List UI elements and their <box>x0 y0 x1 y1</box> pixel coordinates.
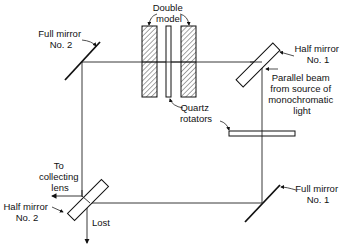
label-to-collecting-lens: To collecting lens <box>39 160 81 193</box>
leader-quartz-lower <box>220 121 229 130</box>
label-lost: Lost <box>92 217 110 228</box>
label-half-mirror-1: Half mirror No. 1 <box>295 43 342 65</box>
double-model-right-block <box>181 26 196 97</box>
double-model-left-block <box>142 26 157 97</box>
leader-half-mirror-1 <box>280 52 294 56</box>
label-parallel-beam: Parallel beam from source of monochromat… <box>268 72 336 116</box>
label-quartz-rotators: Quartz rotators <box>180 102 212 124</box>
label-double-model: Double model <box>153 2 186 24</box>
leader-full-mirror-1 <box>281 187 296 190</box>
leader-full-mirror-2 <box>82 40 96 46</box>
leader-half-mirror-2 <box>52 207 63 212</box>
label-full-mirror-1: Full mirror No. 1 <box>295 183 340 205</box>
quartz-rotator-upper <box>166 26 171 97</box>
full-mirror-1 <box>245 185 280 222</box>
interferometer-diagram: Double model Full mirror No. 2 Half mirr… <box>0 0 346 247</box>
label-full-mirror-2: Full mirror No. 2 <box>38 28 83 50</box>
label-half-mirror-2: Half mirror No. 2 <box>4 201 51 223</box>
half-mirror-2 <box>67 179 108 220</box>
